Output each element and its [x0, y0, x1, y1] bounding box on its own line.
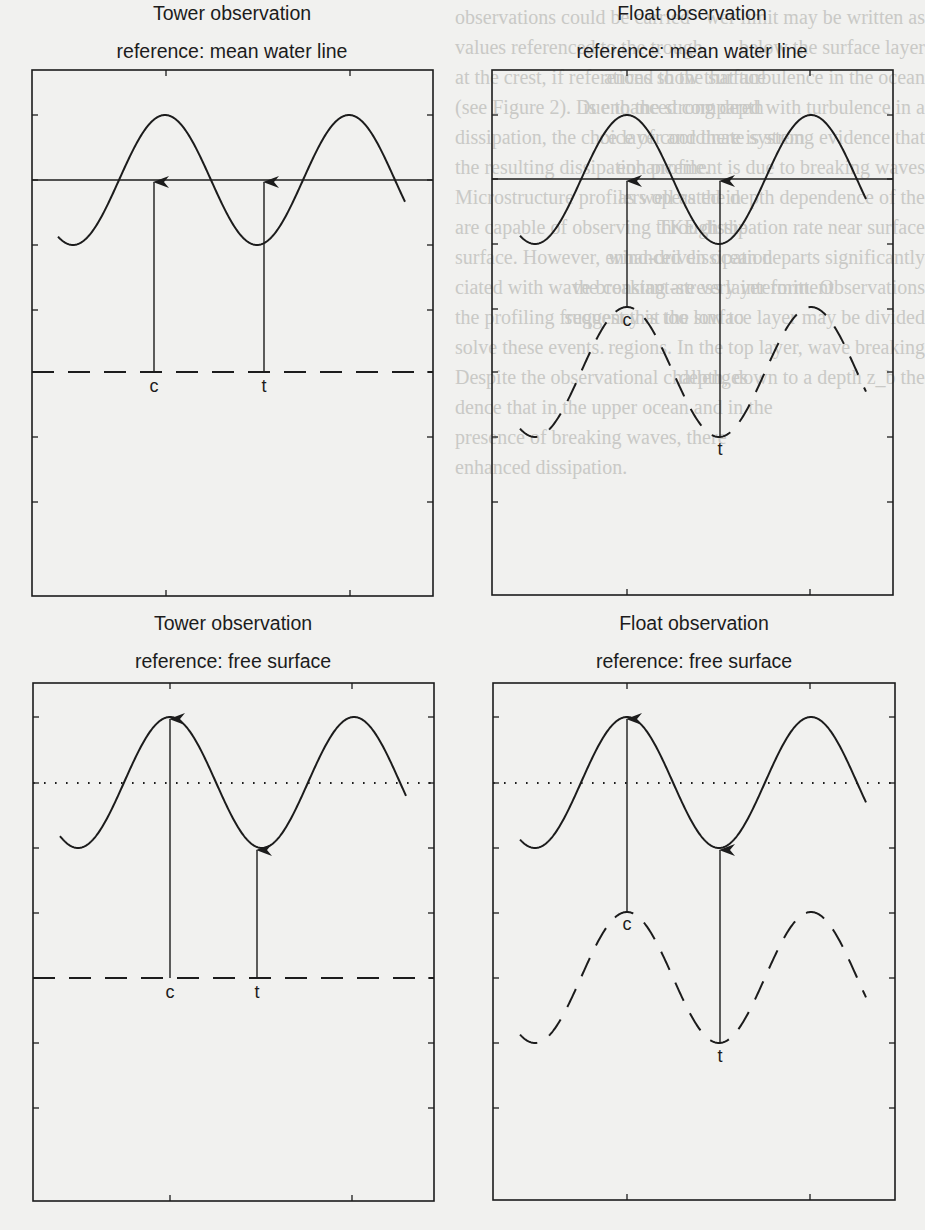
panel-tower-mean-water-line: Tower observation reference: mean water … — [32, 2, 433, 596]
panel-tower-free-surface: Tower observation reference: free surfac… — [33, 612, 434, 1201]
free-surface-wave — [520, 717, 866, 848]
panel-title-line1: Float observation — [619, 612, 769, 634]
plot-frame — [492, 70, 893, 595]
crest-label: c — [623, 310, 632, 330]
panel-title-line2: reference: mean water line — [577, 40, 808, 62]
panel-title-line2: reference: free surface — [596, 650, 792, 672]
panel-float-mean-water-line: Float observation reference: mean water … — [492, 2, 893, 595]
trough-label: t — [254, 982, 259, 1002]
crest-label: c — [166, 982, 175, 1002]
panel-title-line2: reference: free surface — [135, 650, 331, 672]
trough-label: t — [717, 1046, 722, 1066]
crest-label: c — [150, 376, 159, 396]
wave-observation-figure: Tower observation reference: mean water … — [0, 0, 925, 1230]
trough-label: t — [261, 376, 266, 396]
crest-label: c — [623, 914, 632, 934]
plot-frame — [493, 683, 895, 1200]
trough-label: t — [717, 439, 722, 459]
plot-frame — [32, 70, 433, 596]
free-surface-wave — [60, 717, 406, 848]
panel-title-line1: Tower observation — [154, 612, 312, 634]
panel-title-line2: reference: mean water line — [117, 40, 348, 62]
panel-title-line1: Float observation — [617, 2, 767, 24]
instrument-float-path — [520, 912, 866, 1043]
instrument-float-path — [520, 307, 866, 437]
panel-float-free-surface: Float observation reference: free surfac… — [493, 612, 895, 1200]
plot-frame — [33, 683, 434, 1201]
panel-title-line1: Tower observation — [153, 2, 311, 24]
